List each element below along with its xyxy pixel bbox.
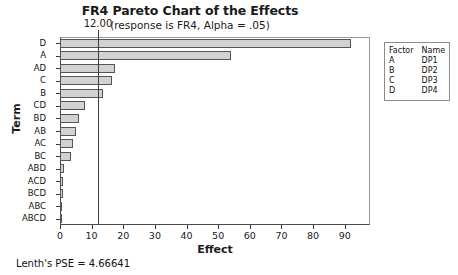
bar-row — [60, 139, 370, 148]
x-tick-label-80: 80 — [307, 230, 319, 241]
y-tick-label-a: A — [40, 51, 46, 60]
bar-row — [60, 51, 370, 60]
bar-row — [60, 152, 370, 161]
bar-row — [60, 202, 370, 211]
x-tick-mark — [187, 225, 188, 229]
bar-ad — [60, 64, 115, 73]
x-tick-label-70: 70 — [275, 230, 287, 241]
legend-name-c: DP3 — [414, 76, 446, 86]
y-axis-tick-labels: DAADCBCDBDABACBCABDACDBCDABCABCD — [0, 37, 54, 225]
x-tick-label-50: 50 — [212, 230, 224, 241]
y-tick-mark — [56, 169, 60, 170]
legend-name-a: DP1 — [414, 56, 446, 66]
y-tick-label-b: B — [40, 89, 46, 98]
legend-header-row: Factor Name — [389, 46, 445, 56]
bars-layer — [60, 37, 370, 225]
y-tick-label-abc: ABC — [29, 202, 46, 211]
bar-acd — [60, 177, 63, 186]
x-tick-label-20: 20 — [117, 230, 129, 241]
bar-ab — [60, 127, 76, 136]
bar-bd — [60, 114, 79, 123]
bar-cd — [60, 101, 85, 110]
y-tick-mark — [56, 118, 60, 119]
x-tick-label-90: 90 — [339, 230, 351, 241]
bar-row — [60, 127, 370, 136]
bar-row — [60, 177, 370, 186]
y-tick-mark — [56, 206, 60, 207]
y-tick-mark — [56, 156, 60, 157]
legend-row: DDP4 — [389, 86, 445, 96]
x-tick-mark — [155, 225, 156, 229]
y-tick-mark — [56, 131, 60, 132]
x-tick-mark — [250, 225, 251, 229]
legend-row: BDP2 — [389, 66, 445, 76]
y-tick-label-d: D — [39, 39, 46, 48]
x-tick-mark — [281, 225, 282, 229]
reference-line-label: 12.00 — [84, 18, 113, 29]
x-tick-label-30: 30 — [149, 230, 161, 241]
x-tick-mark — [218, 225, 219, 229]
chart-title: FR4 Pareto Chart of the Effects — [0, 3, 380, 18]
bar-row — [60, 214, 370, 223]
y-tick-mark — [56, 93, 60, 94]
y-tick-mark — [56, 106, 60, 107]
y-tick-label-cd: CD — [34, 101, 46, 110]
reference-line — [98, 30, 99, 225]
bar-abd — [60, 164, 64, 173]
bar-c — [60, 76, 112, 85]
factor-legend: Factor Name ADP1BDP2CDP3DDP4 — [384, 42, 450, 101]
x-tick-label-40: 40 — [180, 230, 192, 241]
lenth-pse-annotation: Lenth's PSE = 4.66641 — [16, 258, 130, 269]
bar-bc — [60, 152, 71, 161]
y-tick-mark — [56, 56, 60, 57]
legend-factor-a: A — [389, 56, 414, 66]
y-tick-mark — [56, 219, 60, 220]
y-tick-mark — [56, 144, 60, 145]
x-tick-mark — [345, 225, 346, 229]
legend-row: CDP3 — [389, 76, 445, 86]
y-tick-label-bc: BC — [34, 152, 46, 161]
y-tick-mark — [56, 43, 60, 44]
legend-name-d: DP4 — [414, 86, 446, 96]
y-tick-mark — [56, 181, 60, 182]
y-tick-label-abcd: ABCD — [22, 214, 46, 223]
y-tick-mark — [56, 81, 60, 82]
bar-abcd — [60, 214, 62, 223]
bar-row — [60, 189, 370, 198]
bar-row — [60, 64, 370, 73]
x-tick-label-60: 60 — [244, 230, 256, 241]
bar-row — [60, 89, 370, 98]
bar-row — [60, 101, 370, 110]
chart-subtitle: (response is FR4, Alpha = .05) — [0, 19, 380, 31]
legend-table: Factor Name ADP1BDP2CDP3DDP4 — [389, 46, 445, 96]
legend-header-name: Name — [414, 46, 446, 56]
bar-row — [60, 76, 370, 85]
bar-d — [60, 39, 351, 48]
x-tick-mark — [313, 225, 314, 229]
x-tick-label-10: 10 — [86, 230, 98, 241]
bar-abc — [60, 202, 62, 211]
bar-row — [60, 164, 370, 173]
x-axis-title: Effect — [60, 243, 370, 256]
pareto-chart-figure: FR4 Pareto Chart of the Effects (respons… — [0, 0, 458, 275]
x-tick-label-0: 0 — [57, 230, 63, 241]
y-tick-label-bcd: BCD — [28, 189, 46, 198]
legend-header-factor: Factor — [389, 46, 414, 56]
bar-b — [60, 89, 103, 98]
bar-row — [60, 114, 370, 123]
y-tick-label-ad: AD — [34, 64, 46, 73]
y-tick-mark — [56, 194, 60, 195]
y-tick-label-abd: ABD — [28, 164, 46, 173]
bar-a — [60, 51, 231, 60]
y-tick-label-acd: ACD — [28, 177, 46, 186]
y-tick-label-c: C — [40, 76, 46, 85]
y-tick-label-ab: AB — [34, 127, 46, 136]
x-tick-mark — [123, 225, 124, 229]
legend-factor-c: C — [389, 76, 414, 86]
y-tick-label-ac: AC — [34, 139, 46, 148]
bar-bcd — [60, 189, 63, 198]
y-tick-mark — [56, 68, 60, 69]
legend-name-b: DP2 — [414, 66, 446, 76]
bar-row — [60, 39, 370, 48]
y-tick-label-bd: BD — [34, 114, 46, 123]
